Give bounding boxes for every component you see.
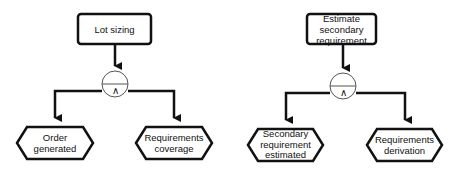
event-label: Requirements derivation bbox=[371, 129, 438, 161]
event-label: Requirements coverage bbox=[140, 127, 208, 159]
function-label: Lot sizing bbox=[78, 14, 151, 44]
operator-and-icon: ∧ bbox=[105, 84, 125, 96]
event-label: Secondary requirement estimated bbox=[254, 129, 317, 161]
function-label: Estimate secondary requirement bbox=[309, 14, 374, 44]
event-label: Order generated bbox=[30, 127, 80, 159]
operator-and-icon: ∧ bbox=[333, 86, 353, 98]
